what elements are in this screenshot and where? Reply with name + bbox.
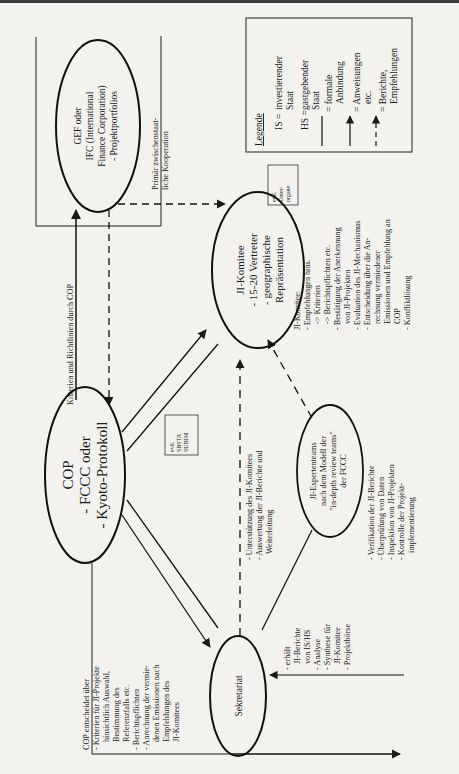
svg-text:- 15-20 Vertreter: - 15-20 Vertreter <box>247 233 259 306</box>
cop-to-sekretariat-arrow <box>122 515 210 647</box>
svg-text:der FCCC: der FCCC <box>339 454 348 488</box>
sbsta-box: evtl. SBSTA SUBIM <box>165 415 198 455</box>
svg-text:- Kontrolle der Projekt-: - Kontrolle der Projekt- <box>397 483 406 560</box>
cop-node[interactable]: COP - FCCC oder - Kyoto-Protokoll <box>45 387 125 563</box>
svg-text:organe: organe <box>285 185 291 202</box>
legend: Legende IS = investierender Staat HS = g… <box>246 18 412 152</box>
svg-text:- Entscheidung über die An-: - Entscheidung über die An- <box>363 237 372 330</box>
svg-text:implementierung: implementierung <box>407 497 416 553</box>
svg-text:COP entscheidet über: COP entscheidet über <box>82 679 91 750</box>
svg-text:JI-Komitee:: JI-Komitee: <box>293 291 302 330</box>
svg-text:Empfehlungen des: Empfehlungen des <box>162 681 171 742</box>
svg-text:= Anweisungen: = Anweisungen <box>352 52 362 112</box>
cop-sekretariat-line <box>127 500 218 628</box>
svg-text:SBSTA: SBSTA <box>176 433 182 452</box>
kriterien-label: Kriterien und Richtlinien durch COP <box>66 284 75 405</box>
experten-to-komitee-dashed-arrow <box>268 340 312 418</box>
svg-text:evtl.: evtl. <box>169 441 175 452</box>
svg-text:investierender: investierender <box>274 55 284 110</box>
unterorgane-box: evtl. Unter- organe <box>268 165 298 205</box>
svg-text:COP: COP <box>393 308 402 324</box>
svg-text:- geographische: - geographische <box>260 235 272 305</box>
svg-text:- Überprüfung von Daten: - Überprüfung von Daten <box>377 477 386 560</box>
svg-text:liche Kooperation: liche Kooperation <box>161 131 170 190</box>
svg-text:- Bestätigung der Anerkennung: - Bestätigung der Anerkennung <box>333 227 342 330</box>
svg-text:Primär zwischenstaat-: Primär zwischenstaat- <box>151 117 160 190</box>
sekretariat-tasks: - erhält JI-Berichte von IS/HS - Analyse… <box>283 623 352 670</box>
svg-text:-> Kriterien: -> Kriterien <box>313 285 322 324</box>
gef-node[interactable]: GEF oder IFC (International Finance Corp… <box>56 40 140 212</box>
svg-text:Emissionen und Empfehlung an: Emissionen und Empfehlung an <box>383 219 392 324</box>
svg-text:- Konfliktlösung: - Konfliktlösung <box>403 276 412 330</box>
svg-text:Unter-: Unter- <box>278 186 284 202</box>
svg-text:evtl.: evtl. <box>271 191 277 202</box>
svg-text:SUBIM: SUBIM <box>183 432 189 452</box>
svg-text:JI-Komitee: JI-Komitee <box>333 627 342 664</box>
diagram-canvas: GEF oder IFC (International Finance Corp… <box>0 0 459 774</box>
svg-text:- erhält: - erhält <box>283 646 292 670</box>
legend-title: Legende <box>254 113 264 146</box>
svg-text:- Analyse: - Analyse <box>313 638 322 670</box>
svg-text:- Auswertung der JI-Berichte u: - Auswertung der JI-Berichte und <box>255 450 264 560</box>
legend-item-anweisungen: = Anweisungen etc. <box>352 52 373 112</box>
sekretariat-support-text: - Unterstützung des JI-Komitees - Auswer… <box>245 450 274 560</box>
svg-text:- Synthese für: - Synthese für <box>323 624 332 670</box>
svg-text:- Anrechnung der vermie-: - Anrechnung der vermie- <box>142 665 151 750</box>
svg-text:Weiterleitung: Weiterleitung <box>265 510 274 554</box>
ji-komitee-node[interactable]: JI-Komitee - 15-20 Vertreter - geographi… <box>212 192 304 348</box>
svg-text:- Inspektion von JI-Projekten: - Inspektion von JI-Projekten <box>387 464 396 560</box>
svg-text:gastgebender: gastgebender <box>300 59 310 110</box>
svg-text:- Unterstützung des JI-Komitee: - Unterstützung des JI-Komitees <box>245 454 254 560</box>
svg-text:Anbindung: Anbindung <box>335 61 345 104</box>
scanned-page: GEF oder IFC (International Finance Corp… <box>0 0 459 774</box>
svg-text:-> Berichtspflichten etc.: -> Berichtspflichten etc. <box>323 245 332 324</box>
svg-text:- Verifikation der JI-Berichte: - Verifikation der JI-Berichte <box>367 465 376 560</box>
svg-text:JI-Expertenteams: JI-Expertenteams <box>309 442 318 499</box>
cop-komitee-line <box>127 344 218 451</box>
svg-text:Kriterien und Richtlinien durc: Kriterien und Richtlinien durch COP <box>66 284 75 405</box>
cop-line-1: - FCCC oder <box>77 436 93 514</box>
komitee-tasks: JI-Komitee: - Empfehlungen hins. -> Krit… <box>293 219 412 330</box>
svg-text:"in-depth review teams": "in-depth review teams" <box>329 431 338 510</box>
svg-text:von IS/HS: von IS/HS <box>303 629 312 664</box>
svg-text:- Projektbörse: - Projektbörse <box>343 623 352 670</box>
sekretariat-label: Sekretariat <box>234 675 244 717</box>
ji-experten-node[interactable]: JI-Expertenteams nach dem Modell der "in… <box>297 405 363 537</box>
legend-item-is: IS = investierender Staat <box>274 55 295 130</box>
cop-line-0: COP <box>60 460 76 489</box>
svg-text:hinsichtlich Auswahl,: hinsichtlich Auswahl, <box>102 671 111 742</box>
gef-line-2: Finance Corporation) <box>97 85 108 167</box>
svg-text:- Kriterien für JI-Projekte: - Kriterien für JI-Projekte <box>92 666 101 750</box>
svg-text:JI-Komitee: JI-Komitee <box>234 245 246 295</box>
cop-to-komitee-arrow <box>122 330 206 432</box>
gef-line-0: GEF oder <box>73 107 83 145</box>
svg-text:Staat: Staat <box>311 91 321 110</box>
experten-tasks: - Verifikation der JI-Berichte - Überprü… <box>367 464 416 560</box>
svg-text:- Berichtspflichten: - Berichtspflichten <box>132 689 141 750</box>
svg-text:JI-Berichte: JI-Berichte <box>293 627 302 664</box>
svg-text:- Evaluation des JI-Mechanismu: - Evaluation des JI-Mechanismus <box>353 221 362 330</box>
svg-text:- Empfehlungen hins.: - Empfehlungen hins. <box>303 259 312 330</box>
legend-item-berichte: = Berichte, Empfehlungen <box>378 48 399 112</box>
cop-line-2: - Kyoto-Protokoll <box>94 421 110 528</box>
svg-text:Bestimmung des: Bestimmung des <box>112 687 121 742</box>
cop-decides-text: COP entscheidet über - Kriterien für JI-… <box>82 665 181 750</box>
svg-text:denen Emissionen nach: denen Emissionen nach <box>152 665 161 742</box>
svg-text:von JI-Projekten: von JI-Projekten <box>343 270 352 324</box>
svg-text:Repräsentation: Repräsentation <box>273 237 285 303</box>
svg-text:= formale: = formale <box>324 75 334 112</box>
gef-line-3: - Projektportfolios <box>109 91 119 161</box>
svg-text:Referenzfalls etc.: Referenzfalls etc. <box>122 685 131 742</box>
svg-text:Staat: Staat <box>285 91 295 110</box>
svg-text:rechnung vermiedener: rechnung vermiedener <box>373 250 382 324</box>
legend-item-formal: = formale Anbindung <box>324 61 345 112</box>
svg-text:HS =: HS = <box>300 110 310 130</box>
svg-text:nach dem Modell der: nach dem Modell der <box>319 436 328 506</box>
gef-line-1: IFC (International <box>85 91 96 160</box>
legend-item-hs: HS = gastgebender Staat <box>300 59 321 130</box>
svg-text:= Berichte,: = Berichte, <box>378 70 388 112</box>
svg-text:IS =: IS = <box>274 114 284 130</box>
svg-text:etc.: etc. <box>363 91 373 104</box>
svg-text:JI-Komitees: JI-Komitees <box>172 702 181 742</box>
sekretariat-node[interactable]: Sekretariat <box>210 636 266 756</box>
